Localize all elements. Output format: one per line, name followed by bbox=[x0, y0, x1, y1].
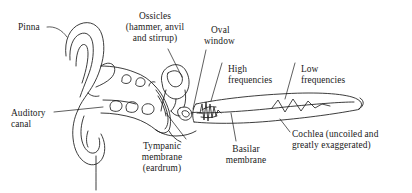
travelling-wave bbox=[200, 99, 330, 121]
leader-ossicles bbox=[168, 49, 182, 77]
cochlea-uncoiled bbox=[193, 93, 364, 123]
leader-high-frequencies bbox=[211, 63, 222, 101]
label-basilar-membrane-line1: Basilar bbox=[210, 144, 282, 155]
leader-oval-window bbox=[193, 50, 206, 109]
label-auditory-canal-line2: canal bbox=[11, 119, 31, 130]
leader-cochlea bbox=[280, 119, 290, 132]
label-basilar-membrane-line2: membrane bbox=[210, 155, 282, 166]
label-low-frequencies-line1: Low bbox=[301, 64, 319, 75]
pinna-outline bbox=[66, 23, 115, 190]
ear-anatomy-figure: Pinna Ossicles (hammer, anvil and stirru… bbox=[0, 0, 412, 193]
leader-pinna bbox=[47, 27, 67, 37]
label-tympanic-membrane-line3: (eardrum) bbox=[118, 163, 206, 174]
label-oval-window-line2: window bbox=[204, 36, 235, 47]
label-ossicles-line3: and stirrup) bbox=[101, 33, 209, 44]
label-low-frequencies-line2: frequencies bbox=[301, 75, 345, 86]
label-oval-window-line1: Oval bbox=[211, 25, 230, 36]
label-high-frequencies-line1: High bbox=[228, 64, 247, 75]
label-cochlea-line1: Cochlea (uncoiled and bbox=[292, 129, 378, 140]
auditory-canal bbox=[101, 66, 156, 130]
label-tympanic-membrane-line2: membrane bbox=[118, 152, 206, 163]
label-pinna: Pinna bbox=[18, 22, 40, 33]
label-ossicles-line2: (hammer, anvil bbox=[101, 22, 209, 33]
tympanic-membrane bbox=[155, 86, 171, 133]
label-high-frequencies-line2: frequencies bbox=[228, 75, 272, 86]
label-tympanic-membrane-line1: Tympanic bbox=[118, 141, 206, 152]
leader-basilar-membrane bbox=[231, 113, 236, 141]
label-auditory-canal-line1: Auditory bbox=[11, 108, 46, 119]
label-cochlea-line2: greatly exaggerated) bbox=[292, 140, 371, 151]
label-ossicles-line1: Ossicles bbox=[101, 11, 209, 22]
